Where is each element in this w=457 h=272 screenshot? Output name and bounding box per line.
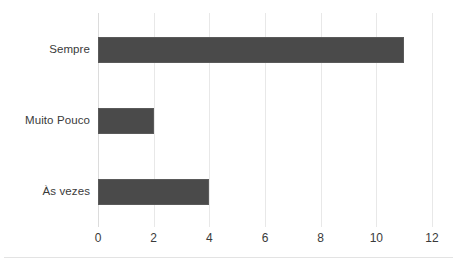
- bottom-divider: [4, 257, 453, 258]
- gridline-12: [432, 13, 433, 227]
- x-tick-label: 6: [245, 231, 285, 245]
- x-tick-label: 8: [301, 231, 341, 245]
- x-tick-label: 0: [78, 231, 118, 245]
- x-axis-tick-labels: 024681012: [0, 231, 457, 253]
- bar: [98, 37, 404, 63]
- category-label: Sempre: [0, 43, 90, 55]
- x-tick-label: 10: [356, 231, 396, 245]
- bar: [98, 108, 154, 134]
- bar-chart: SempreMuito PoucoÀs vezes 024681012: [0, 0, 457, 272]
- category-label: Muito Pouco: [0, 114, 90, 126]
- plot-area: [98, 13, 432, 227]
- x-tick-label: 2: [134, 231, 174, 245]
- category-axis-labels: SempreMuito PoucoÀs vezes: [0, 13, 90, 227]
- bar: [98, 179, 209, 205]
- x-tick-label: 4: [189, 231, 229, 245]
- x-tick-label: 12: [412, 231, 452, 245]
- category-label: Às vezes: [0, 185, 90, 197]
